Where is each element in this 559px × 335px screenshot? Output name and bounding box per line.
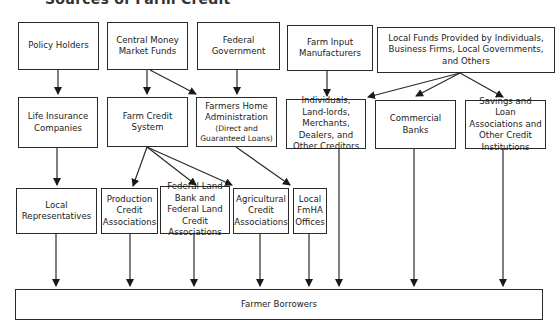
box-label: Commercial Banks: [386, 113, 446, 136]
agricultural-credit-associations-box: Agricultural Credit Associations: [233, 188, 289, 234]
box-label: Farm Input Manufacturers: [297, 37, 363, 60]
individuals-landlords-box: Individuals, Land-lords, Merchants, Deal…: [286, 99, 366, 149]
farmer-borrowers-box: Farmer Borrowers: [15, 289, 543, 320]
box-label: Local Funds Provided by Individuals, Bus…: [386, 33, 546, 68]
farm-credit-system-box: Farm Credit System: [107, 97, 188, 147]
box-label: Local Representatives: [19, 200, 94, 223]
box-label: Policy Holders: [28, 40, 88, 52]
life-insurance-companies-box: Life Insurance Companies: [18, 97, 98, 148]
box-sublabel: (Direct and Guaranteed Loans): [200, 124, 274, 144]
local-fmha-offices-box: Local FmHA Offices: [293, 188, 327, 234]
farm-input-manufacturers-box: Farm Input Manufacturers: [287, 25, 373, 71]
box-label: Central Money Market Funds: [115, 35, 181, 58]
central-money-market-funds-box: Central Money Market Funds: [107, 22, 188, 70]
box-label: Local FmHA Offices: [295, 194, 325, 229]
savings-and-loan-box: Savings and Loan Associations and Other …: [465, 100, 546, 149]
federal-government-box: Federal Government: [197, 22, 280, 70]
policy-holders-box: Policy Holders: [18, 22, 99, 70]
box-label: Production Credit Associations: [103, 194, 156, 229]
local-funds-box: Local Funds Provided by Individuals, Bus…: [377, 27, 555, 73]
box-label: Federal Land Bank and Federal Land Credi…: [163, 181, 227, 239]
box-label: Farm Credit System: [123, 111, 173, 134]
production-credit-associations-box: Production Credit Associations: [101, 188, 158, 234]
local-representatives-box: Local Representatives: [16, 188, 97, 234]
box-label: Individuals, Land-lords, Merchants, Deal…: [289, 95, 363, 153]
box-label: Federal Government: [209, 35, 269, 58]
federal-land-bank-box: Federal Land Bank and Federal Land Credi…: [160, 186, 230, 234]
box-label: Farmers Home Administration: [200, 101, 274, 124]
box-label: Farmer Borrowers: [241, 299, 317, 311]
box-label: Agricultural Credit Associations: [234, 194, 287, 229]
box-label: Life Insurance Companies: [26, 111, 90, 134]
commercial-banks-box: Commercial Banks: [375, 100, 456, 149]
farmers-home-administration-box: Farmers Home Administration (Direct and …: [196, 97, 277, 147]
box-label: Savings and Loan Associations and Other …: [468, 96, 543, 154]
